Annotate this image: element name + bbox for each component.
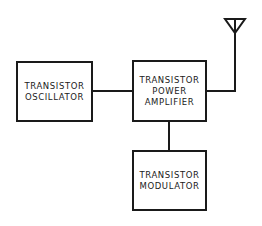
block-label-line: TRANSISTOR: [24, 81, 84, 92]
block-label-line: POWER: [152, 86, 187, 97]
wire-amplifier-to-antenna: [207, 33, 235, 91]
block-transistor-oscillator: TRANSISTOR OSCILLATOR: [16, 61, 93, 122]
block-transistor-modulator: TRANSISTOR MODULATOR: [132, 150, 207, 211]
block-label-line: AMPLIFIER: [145, 97, 195, 108]
transmitter-block-diagram: TRANSISTOR OSCILLATOR TRANSISTOR POWER A…: [0, 0, 262, 226]
block-label-line: TRANSISTOR: [139, 170, 199, 181]
block-label-line: OSCILLATOR: [25, 92, 84, 103]
block-label-line: MODULATOR: [139, 181, 199, 192]
block-label-line: TRANSISTOR: [139, 75, 199, 86]
block-transistor-power-amplifier: TRANSISTOR POWER AMPLIFIER: [132, 60, 207, 122]
antenna-icon: [225, 19, 245, 33]
